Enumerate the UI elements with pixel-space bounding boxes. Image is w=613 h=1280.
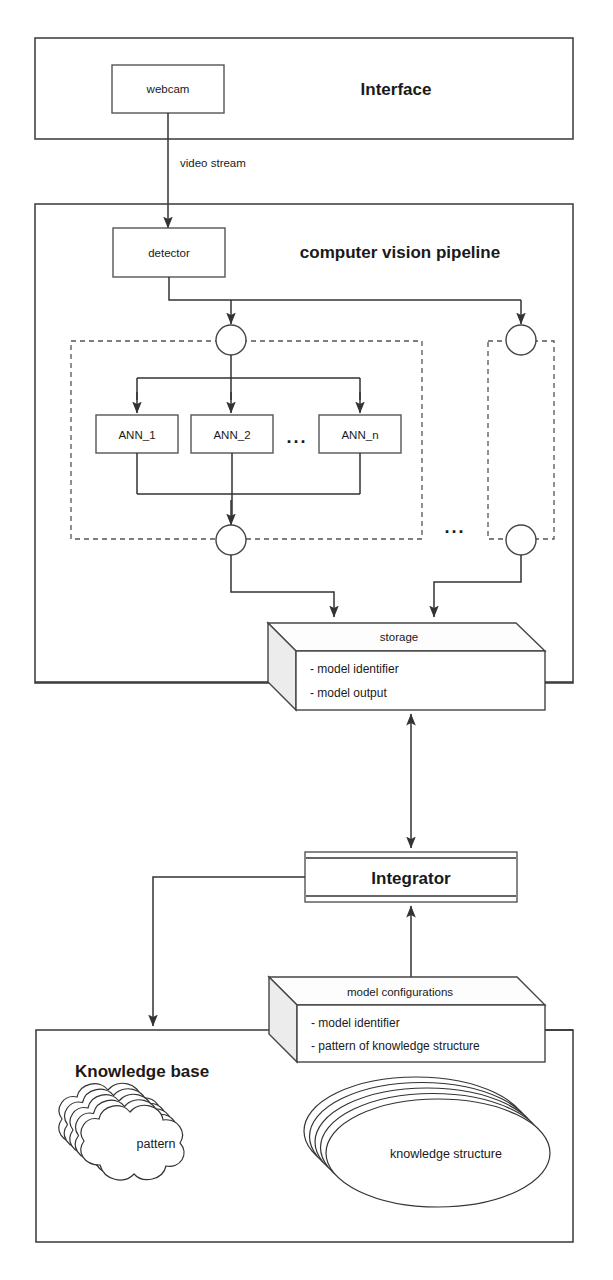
knowledge-structure-label: knowledge structure (390, 1147, 502, 1161)
group1-output-junction (216, 525, 246, 555)
storage-item-1: - model output (310, 686, 387, 700)
storage-title: storage (380, 631, 418, 643)
model-configurations-title: model configurations (347, 986, 453, 998)
model-configurations-front-face (297, 1005, 545, 1062)
edge-group1-merge (137, 453, 360, 521)
pattern-label: pattern (137, 1137, 176, 1151)
model-configurations-datastore[interactable]: model configurations - model identifier … (269, 977, 545, 1062)
pipeline-title: computer vision pipeline (300, 243, 500, 262)
detector-label: detector (148, 247, 190, 259)
model-configurations-item-0: - model identifier (311, 1016, 400, 1030)
storage-datastore[interactable]: storage - model identifier - model outpu… (268, 623, 545, 710)
interface-title: Interface (361, 80, 432, 99)
ann-1-label: ANN_1 (118, 429, 155, 441)
integrator-label: Integrator (371, 869, 451, 888)
diagram-root: Interface webcam video stream computer v… (0, 0, 613, 1280)
ann-2-label: ANN_2 (213, 429, 250, 441)
video-stream-label: video stream (180, 157, 246, 169)
storage-front-face (296, 651, 545, 710)
webcam-label: webcam (146, 83, 190, 95)
groupn-output-junction (506, 525, 536, 555)
edge-group1-split (137, 355, 360, 400)
group-outer-ellipsis: ... (444, 517, 465, 537)
ann-inner-ellipsis: ... (286, 427, 307, 447)
edge-group1-to-storage (231, 555, 334, 617)
storage-item-0: - model identifier (310, 662, 399, 676)
integrator-node[interactable]: Integrator (305, 852, 517, 902)
section-interface: Interface webcam (35, 38, 573, 139)
architecture-diagram: Interface webcam video stream computer v… (0, 0, 613, 1280)
ann-n-label: ANN_n (341, 429, 378, 441)
pattern-shape[interactable]: pattern (59, 1083, 184, 1180)
knowledge-structure-shape[interactable]: knowledge structure (304, 1077, 550, 1207)
model-configurations-item-1: - pattern of knowledge structure (311, 1039, 480, 1053)
edge-detector-bus (169, 277, 521, 300)
ann-group-n-dashed-boundary (488, 341, 554, 539)
group1-input-junction (216, 325, 246, 355)
knowledge-base-title: Knowledge base (75, 1062, 209, 1081)
edge-groupn-to-storage (434, 555, 521, 617)
groupn-input-junction (506, 325, 536, 355)
